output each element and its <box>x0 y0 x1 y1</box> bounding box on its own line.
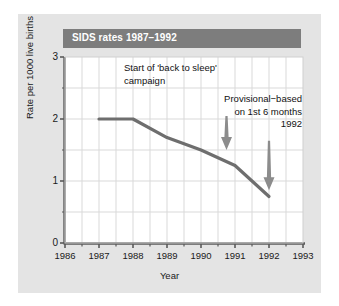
chart-title: SIDS rates 1987–1992 <box>72 32 177 43</box>
y-tick-label: 2 <box>38 113 58 124</box>
chart-figure: SIDS rates 1987–1992 Rate per 1000 live … <box>0 0 339 306</box>
y-tick-label: 1 <box>38 175 58 186</box>
annotation-provisional: Provisional−based on 1st 6 months 1992 <box>188 93 302 131</box>
annotation-back-to-sleep-line1: Start of 'back to sleep' <box>124 62 217 75</box>
annotation-provisional-line1: Provisional−based <box>188 93 302 106</box>
annotation-back-to-sleep-line2: campaign <box>124 75 217 88</box>
x-tick-label: 1993 <box>283 250 323 261</box>
x-axis-label: Year <box>0 270 339 281</box>
chart-title-bar: SIDS rates 1987–1992 <box>63 29 301 48</box>
y-tick-label: 3 <box>38 51 58 62</box>
annotation-back-to-sleep: Start of 'back to sleep' campaign <box>124 62 217 87</box>
annotation-provisional-line3: 1992 <box>188 118 302 131</box>
annotation-provisional-line2: on 1st 6 months <box>188 106 302 119</box>
y-tick-label: 0 <box>38 237 58 248</box>
y-axis-label: Rate per 1000 live births <box>24 8 35 128</box>
